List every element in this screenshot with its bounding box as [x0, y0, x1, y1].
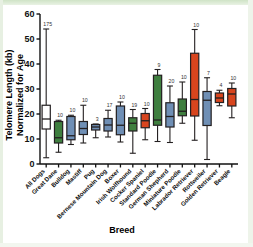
n-label: 175	[43, 21, 52, 27]
n-label: 7	[207, 70, 210, 76]
y-tick-label: 40	[24, 59, 34, 69]
box-plot-item	[166, 86, 174, 143]
top-frame-band	[0, 0, 253, 5]
y-tick-label: 10	[24, 134, 34, 144]
y-tick-label: 30	[24, 84, 34, 94]
box-rect	[54, 122, 62, 144]
box-rect	[178, 99, 186, 116]
box-plot-item	[104, 110, 112, 137]
box-plot-item	[67, 115, 75, 144]
box-plot-item	[203, 78, 211, 160]
box-rect	[153, 75, 161, 125]
y-tick-label: 50	[24, 34, 34, 44]
y-tick-label: 20	[24, 109, 34, 119]
box-plot-item	[228, 83, 236, 118]
right-frame-band	[248, 0, 253, 247]
n-label: 4	[219, 82, 222, 88]
box-rect	[129, 118, 137, 131]
bottom-frame-band	[0, 243, 253, 247]
box-plot-item	[178, 82, 186, 123]
box-plot-item	[92, 124, 100, 138]
box-rect	[116, 106, 124, 135]
box-rect	[203, 92, 211, 126]
box-rect	[191, 53, 199, 116]
box-plot-item	[215, 90, 223, 106]
x-tick-labels: All DogsGreat DaneBulldogMastiffPugBerne…	[23, 167, 232, 220]
box-rect	[228, 89, 236, 107]
box-plot-item	[79, 105, 87, 143]
y-axis-title-line1: Telomere Length (kb)	[4, 50, 14, 141]
n-label: 10	[70, 107, 76, 113]
n-label: 10	[193, 22, 199, 28]
n-label: 10	[82, 97, 88, 103]
box-plot-item	[129, 110, 137, 154]
y-tick-label: 0	[29, 159, 34, 169]
left-frame-band	[0, 0, 3, 247]
n-label: 19	[131, 102, 137, 108]
boxplot-chart: Telomere Length (kb) Normalized for Age …	[0, 0, 253, 247]
box-plot-item	[141, 109, 149, 140]
box-plot-item	[153, 70, 161, 142]
box-rect	[166, 103, 174, 127]
n-label: 10	[144, 101, 150, 107]
n-label: 3	[96, 116, 99, 122]
n-label: 10	[119, 94, 125, 100]
n-label: 17	[107, 102, 113, 108]
box-plot-item	[54, 120, 62, 152]
y-axis: 0102030405060	[24, 9, 40, 169]
n-label: 10	[230, 75, 236, 81]
x-axis-title: Breed	[109, 225, 135, 235]
n-label: 10	[57, 112, 63, 118]
box-series	[42, 29, 236, 160]
n-label: 10	[181, 74, 187, 80]
n-label: 9	[158, 62, 161, 68]
box-plot-item	[116, 102, 124, 142]
box-plot-item	[42, 29, 50, 158]
figure-container: Telomere Length (kb) Normalized for Age …	[0, 0, 253, 247]
box-plot-item	[191, 30, 199, 141]
n-label: 20	[169, 78, 175, 84]
box-rect	[42, 105, 50, 129]
y-axis-title: Telomere Length (kb) Normalized for Age	[4, 50, 25, 141]
y-tick-label: 60	[24, 9, 34, 19]
